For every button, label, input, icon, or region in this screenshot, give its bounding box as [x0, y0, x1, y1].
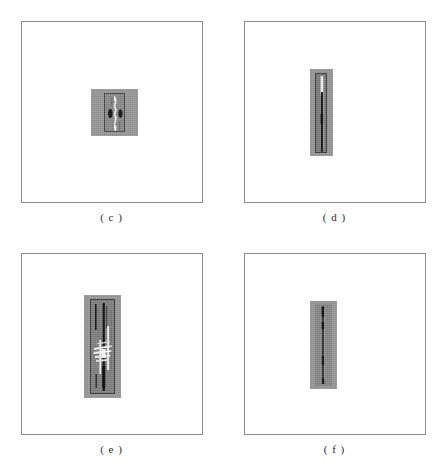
panel-e: ( e )	[0, 232, 223, 465]
panel-d-frame	[244, 21, 426, 203]
panel-c-frame	[21, 21, 203, 203]
panel-f-frame	[244, 253, 426, 435]
panel-d-inner-box	[315, 73, 327, 153]
panel-c: ( c )	[0, 0, 223, 232]
panel-e-inner-box	[90, 299, 115, 394]
panel-c-label: ( c )	[100, 211, 123, 223]
panel-e-image-patch	[84, 295, 121, 398]
panel-c-inner-box	[104, 93, 125, 132]
panel-d: ( d )	[223, 0, 446, 232]
panel-e-frame	[21, 253, 203, 435]
panel-f-inner-box	[315, 304, 332, 386]
panel-f-streak-pattern	[315, 304, 332, 386]
figure-panel-grid: ( c )	[0, 0, 446, 465]
panel-f-label: ( f )	[324, 443, 346, 455]
panel-c-streak-pattern	[105, 94, 125, 132]
panel-e-label: ( e )	[100, 443, 123, 455]
panel-f: ( f )	[223, 232, 446, 465]
panel-d-streak-pattern	[316, 74, 327, 153]
panel-e-streak-pattern	[91, 300, 115, 394]
panel-d-image-patch	[310, 69, 333, 156]
panel-f-image-patch	[310, 301, 337, 389]
panel-d-label: ( d )	[323, 211, 346, 223]
panel-c-image-patch	[91, 89, 138, 136]
